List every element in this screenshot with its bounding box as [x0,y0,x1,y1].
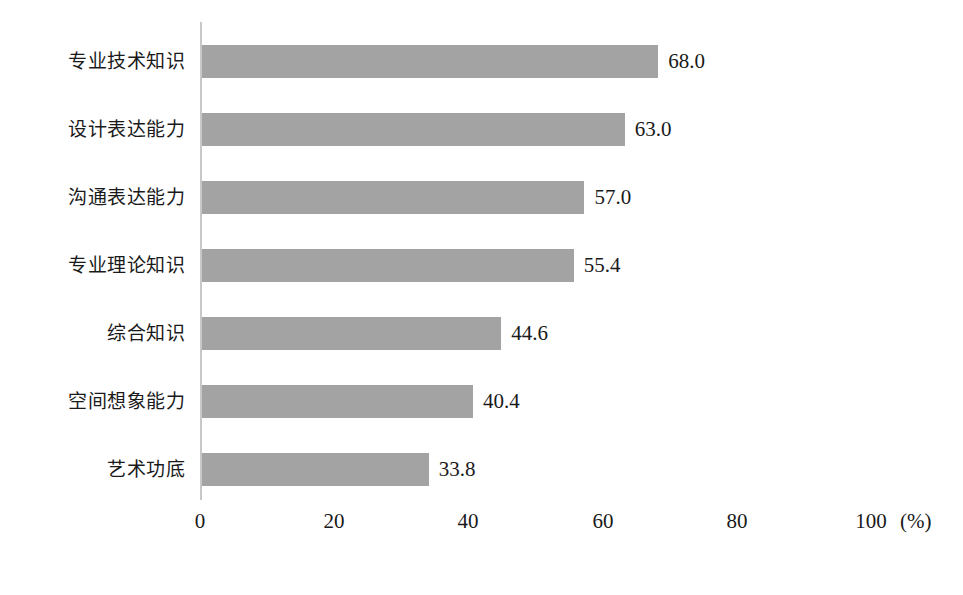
table-row: 空间想象能力 40.4 [0,385,963,418]
table-row: 沟通表达能力 57.0 [0,181,963,214]
table-row: 综合知识 44.6 [0,317,963,350]
category-label: 专业理论知识 [0,249,185,282]
x-tick-label: 100 [855,509,887,534]
x-tick-label: 80 [727,509,748,534]
category-label: 专业技术知识 [0,45,185,78]
bar-value-label: 55.4 [584,249,621,282]
table-row: 专业技术知识 68.0 [0,45,963,78]
category-label: 设计表达能力 [0,113,185,146]
x-tick-label: 40 [458,509,479,534]
bar-value-label: 33.8 [439,453,476,486]
bar-value-label: 40.4 [483,385,520,418]
bar-value-label: 63.0 [635,113,672,146]
category-label: 艺术功底 [0,453,185,486]
bar-chart: 专业技术知识 68.0 设计表达能力 63.0 沟通表达能力 57.0 专业理论… [0,0,963,595]
x-tick-label: 60 [593,509,614,534]
category-label: 空间想象能力 [0,385,185,418]
bar [202,317,501,350]
bar-value-label: 44.6 [511,317,548,350]
plot-area: 专业技术知识 68.0 设计表达能力 63.0 沟通表达能力 57.0 专业理论… [0,0,963,595]
bar [202,249,574,282]
category-label: 综合知识 [0,317,185,350]
bar-value-label: 68.0 [668,45,705,78]
table-row: 设计表达能力 63.0 [0,113,963,146]
bar [202,385,473,418]
category-label: 沟通表达能力 [0,181,185,214]
bar-value-label: 57.0 [594,181,631,214]
bar [202,181,584,214]
x-tick-label: 0 [195,509,206,534]
table-row: 艺术功底 33.8 [0,453,963,486]
bar [202,453,429,486]
x-axis-unit-label: (%) [900,509,931,534]
x-tick-label: 20 [324,509,345,534]
table-row: 专业理论知识 55.4 [0,249,963,282]
bar [202,45,658,78]
bar [202,113,625,146]
